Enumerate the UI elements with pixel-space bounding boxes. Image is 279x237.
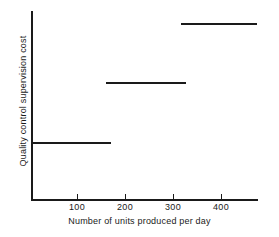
x-tick-mark-400 (221, 194, 222, 200)
x-tick-label-100: 100 (69, 202, 85, 212)
x-tick-mark-300 (173, 194, 174, 200)
step-segment-1 (31, 142, 111, 144)
x-tick-label-400: 400 (213, 202, 229, 212)
x-tick-mark-100 (77, 194, 78, 200)
x-axis-line (31, 199, 258, 201)
y-axis-title: Quality control supervision cost (18, 11, 28, 191)
step-segment-3 (181, 23, 257, 25)
x-tick-label-300: 300 (165, 202, 181, 212)
x-tick-mark-200 (125, 194, 126, 200)
y-axis-line (31, 11, 33, 201)
step-segment-2 (106, 82, 186, 84)
x-tick-label-200: 200 (117, 202, 133, 212)
x-axis-title: Number of units produced per day (0, 216, 279, 226)
step-chart: 100 200 300 400 Number of units produced… (0, 0, 279, 237)
